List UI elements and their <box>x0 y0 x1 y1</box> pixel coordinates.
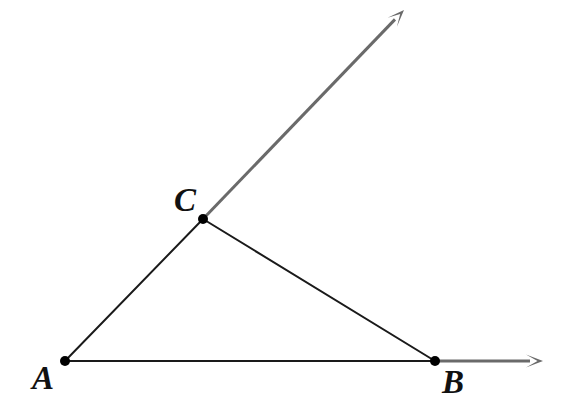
vertex-dot-a <box>60 356 70 366</box>
geometry-figure: A B C <box>0 0 575 410</box>
figure-svg <box>0 0 575 410</box>
vertex-label-c: C <box>174 184 196 217</box>
vertex-dot-c <box>198 214 208 224</box>
vertex-label-a: A <box>32 362 54 395</box>
ray-from-c-line <box>203 19 395 219</box>
vertex-dot-b <box>430 356 440 366</box>
segment-cb <box>203 219 435 361</box>
vertex-label-b: B <box>442 366 464 399</box>
ray-from-c-group <box>203 10 404 219</box>
segment-ac <box>65 219 203 361</box>
